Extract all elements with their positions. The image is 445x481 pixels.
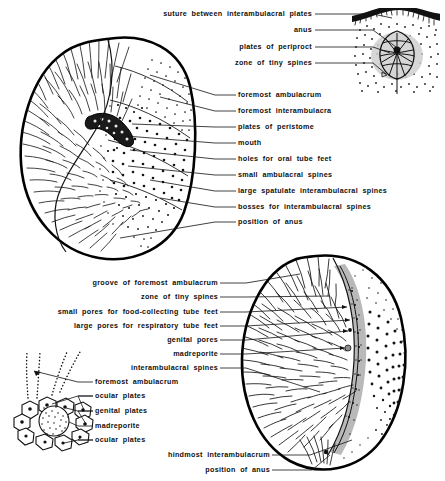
sea-urchin-figure [0,0,445,481]
label-zone-of-tiny-spines-lower: zone of tiny spines [141,293,218,300]
label-position-of-anus-bottom: position of anus [205,466,270,473]
madreporite-disc-shape [39,406,69,436]
label-madreporite-right: madreporite [173,350,218,357]
label-ocular-plates-lower: ocular plates [95,436,145,443]
upper-urchin-oral-view [21,38,195,260]
label-position-of-anus-top: position of anus [238,218,303,225]
ambulacra-dotted-lines [27,352,80,398]
label-madreporite-disc: madreporite [95,422,140,429]
label-hindmost-interambulacrum: hindmost interambulacrum [168,451,270,458]
label-groove-of-foremost-ambulacrum: groove of foremost ambulacrum [92,279,218,286]
lower-urchin-outline [242,256,405,470]
label-bosses-for-interambulacral-spines: bosses for interambulacral spines [238,203,371,210]
label-zone-of-tiny-spines-top: zone of tiny spines [235,59,312,66]
label-foremost-ambulacrum-top: foremost ambulacrum [238,91,321,98]
label-large-spatulate-interambulacral-spines: large spatulate interambulacral spines [238,187,387,194]
label-holes-for-oral-tube-feet: holes for oral tube feet [238,155,331,162]
label-mouth: mouth [238,139,261,146]
label-plates-of-periproct: plates of periproct [239,43,312,50]
label-plates-of-peristome: plates of peristome [238,123,314,130]
label-foremost-ambulacrum-disc: foremost ambulacrum [95,378,178,385]
label-anus: anus [294,26,312,33]
arrowhead-foremost-ambulacrum [34,371,41,376]
lower-urchin-aboral-view [242,256,407,470]
label-small-pores-for-food-collecting-tube-feet: small pores for food-collecting tube fee… [58,308,218,315]
label-ocular-plates-upper: ocular plates [95,392,145,399]
label-interambulacral-spines: interambulacral spines [131,364,218,371]
madreporite-marker [345,345,351,351]
label-suture-between-interambulacral-plates: suture between interambulacral plates [163,10,312,17]
apical-disc-inset [14,352,93,451]
anus-position-marker [324,450,328,454]
genital-pore-marker [348,328,352,332]
label-large-pores-for-respiratory-tube-feet: large pores for respiratory tube feet [74,322,218,329]
apical-plates [14,397,93,451]
label-genital-pores: genital pores [167,336,218,343]
label-small-ambulacral-spines: small ambulacral spines [238,171,332,178]
upper-urchin-outline [21,38,195,260]
label-genital-plates: genital plates [95,407,147,414]
periproct-inset [315,5,441,94]
test-edge-dark [352,5,441,22]
label-foremost-interambulacra: foremost interambulacra [238,107,331,114]
